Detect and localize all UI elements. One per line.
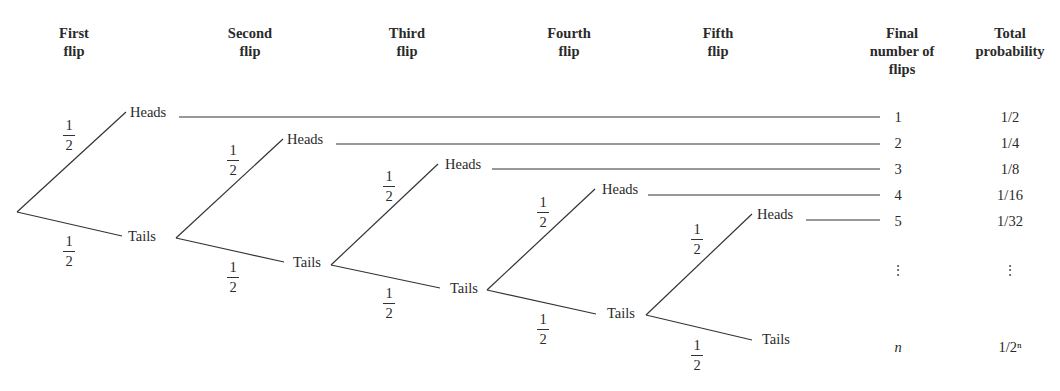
outcome-heads-5: Heads bbox=[757, 206, 793, 222]
total-probability-5: 1/32 bbox=[985, 213, 1035, 230]
final-flips-1: 1 bbox=[888, 109, 908, 126]
branch-probability-h5: 12 bbox=[690, 222, 704, 257]
numerator: 1 bbox=[229, 142, 236, 158]
branch-probability-h1: 12 bbox=[62, 118, 76, 153]
denominator: 2 bbox=[65, 137, 72, 153]
outcome-heads-1: Heads bbox=[130, 104, 166, 120]
branch-probability-t1: 12 bbox=[62, 234, 76, 269]
total-probability-3: 1/8 bbox=[985, 161, 1035, 178]
outcome-tails-4: Tails bbox=[607, 305, 635, 321]
denominator: 2 bbox=[539, 331, 546, 347]
fraction-bar bbox=[691, 355, 703, 356]
numerator: 1 bbox=[539, 194, 546, 210]
fraction-bar bbox=[537, 329, 549, 330]
denominator: 2 bbox=[693, 241, 700, 257]
outcome-tails-5: Tails bbox=[762, 331, 790, 347]
numerator: 1 bbox=[539, 311, 546, 327]
branch-probability-t4: 12 bbox=[536, 312, 550, 347]
branch-probability-t2: 12 bbox=[226, 260, 240, 295]
denominator: 2 bbox=[65, 253, 72, 269]
branch-probability-h4: 12 bbox=[536, 195, 550, 230]
fraction-bar bbox=[383, 303, 395, 304]
fraction-bar bbox=[227, 160, 239, 161]
branch-probability-t3: 12 bbox=[382, 286, 396, 321]
fraction-bar bbox=[227, 277, 239, 278]
branch-probability-h3: 12 bbox=[382, 169, 396, 204]
total-probability-1: 1/2 bbox=[985, 109, 1035, 126]
total-probability-4: 1/16 bbox=[985, 187, 1035, 204]
outcome-tails-2: Tails bbox=[293, 254, 321, 270]
denominator: 2 bbox=[229, 279, 236, 295]
branch-probability-t5: 12 bbox=[690, 338, 704, 373]
outcome-heads-2: Heads bbox=[287, 131, 323, 147]
outcome-tails-3: Tails bbox=[450, 280, 478, 296]
final-flips-5: 5 bbox=[888, 213, 908, 230]
denominator: 2 bbox=[385, 188, 392, 204]
outcome-heads-3: Heads bbox=[445, 156, 481, 172]
final-flips-ellipsis: ⋮ bbox=[888, 263, 908, 278]
fraction-bar bbox=[383, 186, 395, 187]
denominator: 2 bbox=[693, 357, 700, 373]
fraction-bar bbox=[63, 251, 75, 252]
denominator: 2 bbox=[539, 214, 546, 230]
outcome-tails-1: Tails bbox=[128, 228, 156, 244]
fraction-bar bbox=[691, 239, 703, 240]
denominator: 2 bbox=[229, 162, 236, 178]
numerator: 1 bbox=[385, 285, 392, 301]
total-probability-ellipsis: ⋮ bbox=[985, 263, 1035, 278]
final-flips-3: 3 bbox=[888, 161, 908, 178]
final-flips-2: 2 bbox=[888, 135, 908, 152]
denominator: 2 bbox=[385, 305, 392, 321]
total-probability-n: 1/2ⁿ bbox=[985, 339, 1035, 356]
numerator: 1 bbox=[65, 233, 72, 249]
numerator: 1 bbox=[693, 337, 700, 353]
final-flips-4: 4 bbox=[888, 187, 908, 204]
fraction-bar bbox=[63, 135, 75, 136]
numerator: 1 bbox=[385, 168, 392, 184]
numerator: 1 bbox=[65, 117, 72, 133]
final-flips-n: n bbox=[888, 339, 908, 356]
total-probability-2: 1/4 bbox=[985, 135, 1035, 152]
branch-probability-h2: 12 bbox=[226, 143, 240, 178]
fraction-bar bbox=[537, 212, 549, 213]
numerator: 1 bbox=[229, 259, 236, 275]
outcome-heads-4: Heads bbox=[602, 181, 638, 197]
numerator: 1 bbox=[693, 221, 700, 237]
